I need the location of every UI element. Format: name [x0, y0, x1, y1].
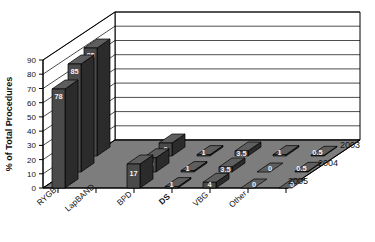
y-axis-title: % of Total Procedures — [4, 77, 14, 171]
bar-value-2003-BPD: 1 — [201, 148, 205, 157]
bar-value-2005-VBG: 0 — [252, 180, 256, 189]
y-tick-50: 50 — [27, 113, 36, 122]
depth-label-2004: 2004 — [318, 158, 338, 168]
y-tick-40: 40 — [27, 127, 36, 136]
bar-value-2003-DS: 3.5 — [236, 149, 246, 158]
bar-value-2004-RYGB: 85 — [70, 67, 78, 76]
y-tick-70: 70 — [27, 85, 36, 94]
x-label-bpd: BPD — [115, 189, 134, 207]
x-label-other: Other — [227, 189, 248, 210]
bar-value-2003-VBG: 1 — [277, 148, 281, 157]
bar-chart-3d: 90 80 70 60 50 40 30 20 10 0 % of Total … — [0, 0, 375, 242]
bar-value-2005-LapBAND: 17 — [129, 169, 137, 178]
bar-value-2005-BPD: 1 — [169, 180, 173, 189]
x-label-ds: DS — [157, 192, 172, 207]
depth-label-2005: 2005 — [288, 176, 308, 186]
bar-value-2004-DS: 3.5 — [220, 165, 230, 174]
bar-value-2005-RYGB: 78 — [54, 92, 62, 101]
bar-value-2004-Other: 0.5 — [296, 164, 306, 173]
y-tick-80: 80 — [27, 70, 36, 79]
chart-canvas: 90 80 70 60 50 40 30 20 10 0 % of Total … — [0, 0, 375, 242]
bar-value-2003-Other: 0.5 — [312, 148, 322, 157]
y-tick-90: 90 — [27, 56, 36, 65]
y-tick-20: 20 — [27, 156, 36, 165]
bar-value-2004-BPD: 1 — [185, 164, 189, 173]
bar-2005-RYGB: 78 — [52, 80, 78, 188]
y-axis: 90 80 70 60 50 40 30 20 10 0 % of Total … — [4, 56, 43, 193]
y-tick-60: 60 — [27, 99, 36, 108]
y-tick-0: 0 — [32, 184, 37, 193]
y-tick-10: 10 — [27, 170, 36, 179]
y-tick-30: 30 — [27, 141, 36, 150]
x-label-vbg: VBG — [191, 190, 210, 208]
y-axis-ticks — [39, 60, 43, 188]
depth-label-2003: 2003 — [340, 140, 360, 150]
back-wall — [115, 12, 360, 140]
bar-value-2004-VBG: 0 — [268, 164, 272, 173]
